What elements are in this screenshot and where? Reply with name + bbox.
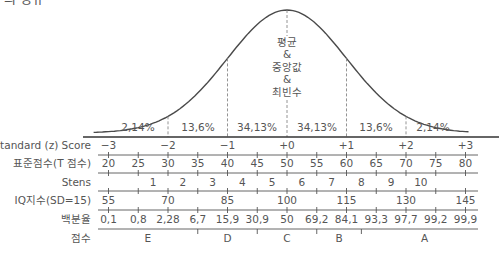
t-score-value: 70 bbox=[399, 157, 412, 169]
normal-distribution-diagram: 의 정규 2,14% 13,6% 34,13% 34,13% 13,6% 2,1… bbox=[0, 0, 499, 257]
t-score-value: 60 bbox=[340, 157, 353, 169]
percentile-value: 69,2 bbox=[305, 213, 328, 225]
row-label-grade: 점수 bbox=[71, 232, 91, 244]
sten-value: 4 bbox=[239, 176, 246, 188]
iq-value: 145 bbox=[455, 194, 475, 206]
center-annotation: 평균 & 중앙값 & 최빈수 bbox=[268, 36, 306, 98]
area-pct-5: 13,6% bbox=[359, 121, 392, 133]
percentile-value: 93,3 bbox=[365, 213, 388, 225]
percentile-value: 99,9 bbox=[454, 213, 477, 225]
z-score-value: +0 bbox=[279, 139, 294, 151]
median-label: 중앙값 bbox=[272, 61, 302, 73]
percentile-value: 0,8 bbox=[130, 213, 147, 225]
t-score-value: 45 bbox=[251, 157, 264, 169]
mode-label: 최빈수 bbox=[272, 86, 302, 98]
sten-value: 7 bbox=[328, 176, 335, 188]
sten-value: 3 bbox=[209, 176, 216, 188]
t-score-value: 20 bbox=[102, 157, 115, 169]
row-label-iq: IQ지수(SD=15) bbox=[15, 194, 91, 206]
sten-value: 9 bbox=[388, 176, 395, 188]
percentile-value: 2,28 bbox=[156, 213, 179, 225]
row-label-z: Standard (z) Score bbox=[0, 139, 91, 151]
sten-value: 1 bbox=[150, 176, 157, 188]
grade-value: B bbox=[335, 232, 342, 244]
percentile-value: 99,2 bbox=[424, 213, 447, 225]
grade-value: D bbox=[223, 232, 231, 244]
t-score-value: 40 bbox=[221, 157, 234, 169]
t-score-value: 30 bbox=[161, 157, 174, 169]
iq-value: 85 bbox=[221, 194, 234, 206]
t-score-value: 25 bbox=[132, 157, 145, 169]
iq-value: 100 bbox=[277, 194, 297, 206]
row-label-t: 표준점수(T 점수) bbox=[13, 157, 91, 169]
t-score-value: 50 bbox=[280, 157, 293, 169]
iq-value: 55 bbox=[102, 194, 115, 206]
t-score-value: 65 bbox=[370, 157, 383, 169]
sten-value: 5 bbox=[269, 176, 276, 188]
sten-value: 10 bbox=[414, 176, 427, 188]
iq-value: 115 bbox=[336, 194, 356, 206]
row-label-percentile: 백분율 bbox=[61, 213, 91, 225]
t-score-value: 55 bbox=[310, 157, 323, 169]
iq-value: 70 bbox=[161, 194, 174, 206]
z-score-value: +1 bbox=[339, 139, 354, 151]
ampersand-1: & bbox=[283, 48, 291, 60]
iq-value: 130 bbox=[396, 194, 416, 206]
z-score-value: +3 bbox=[458, 139, 473, 151]
sten-value: 6 bbox=[299, 176, 306, 188]
t-score-value: 35 bbox=[191, 157, 204, 169]
ampersand-2: & bbox=[283, 73, 291, 85]
row-labels: Standard (z) Score 표준점수(T 점수) Stens IQ지수… bbox=[0, 139, 91, 244]
percentile-value: 0,1 bbox=[100, 213, 117, 225]
area-percentages: 2,14% 13,6% 34,13% 34,13% 13,6% 2,14% bbox=[121, 121, 449, 133]
percentile-value: 6,7 bbox=[189, 213, 206, 225]
area-pct-3: 34,13% bbox=[237, 121, 277, 133]
sten-value: 2 bbox=[180, 176, 187, 188]
t-score-value: 75 bbox=[429, 157, 442, 169]
mean-label: 평균 bbox=[277, 36, 297, 48]
t-score-value: 80 bbox=[459, 157, 472, 169]
area-pct-6: 2,14% bbox=[416, 121, 449, 133]
area-pct-1: 2,14% bbox=[121, 121, 154, 133]
area-pct-2: 13,6% bbox=[181, 121, 214, 133]
grade-value: C bbox=[283, 232, 290, 244]
percentile-value: 50 bbox=[280, 213, 293, 225]
row-label-stens: Stens bbox=[62, 176, 91, 188]
z-score-value: +2 bbox=[398, 139, 413, 151]
percentile-value: 84,1 bbox=[335, 213, 358, 225]
area-pct-4: 34,13% bbox=[297, 121, 337, 133]
sten-value: 8 bbox=[358, 176, 365, 188]
z-score-value: −2 bbox=[160, 139, 175, 151]
grade-value: E bbox=[145, 232, 152, 244]
z-score-value: −1 bbox=[220, 139, 235, 151]
z-score-value: −3 bbox=[101, 139, 116, 151]
grade-value: A bbox=[421, 232, 429, 244]
percentile-value: 97,7 bbox=[394, 213, 417, 225]
percentile-value: 30,9 bbox=[246, 213, 269, 225]
diagram-title: 의 정규 bbox=[4, 0, 44, 6]
percentile-value: 15,9 bbox=[216, 213, 239, 225]
